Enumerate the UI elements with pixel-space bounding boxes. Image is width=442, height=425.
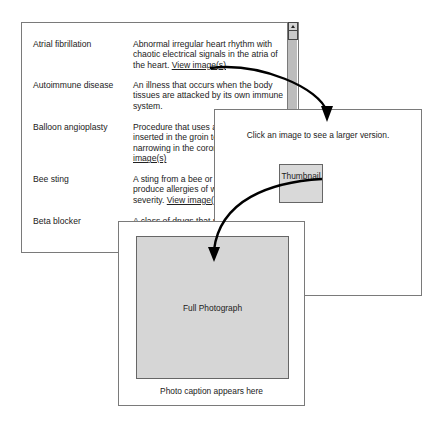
glossary-definition: An illness that occurs when the body tis… bbox=[133, 80, 283, 111]
glossary-term: Atrial fibrillation bbox=[33, 39, 133, 49]
glossary-term: Bee sting bbox=[33, 174, 133, 184]
glossary-term: Balloon angioplasty bbox=[33, 122, 133, 132]
instruction-text: Click an image to see a larger version. bbox=[215, 130, 421, 140]
thumbnail-image[interactable]: Thumbnail bbox=[279, 164, 323, 203]
glossary-term: Autoimmune disease bbox=[33, 80, 133, 90]
view-images-link[interactable]: View image(s) bbox=[172, 60, 226, 70]
photo-panel: Full Photograph Photo caption appears he… bbox=[118, 221, 305, 406]
view-images-link[interactable]: View image(s) bbox=[167, 195, 221, 205]
scroll-thumb[interactable] bbox=[288, 31, 298, 40]
glossary-definition: Abnormal irregular heart rhythm with cha… bbox=[133, 39, 283, 70]
full-photograph: Full Photograph bbox=[136, 236, 289, 379]
photo-caption: Photo caption appears here bbox=[119, 386, 304, 396]
photo-label: Full Photograph bbox=[183, 303, 242, 313]
scroll-up-arrow-icon[interactable] bbox=[288, 22, 298, 31]
